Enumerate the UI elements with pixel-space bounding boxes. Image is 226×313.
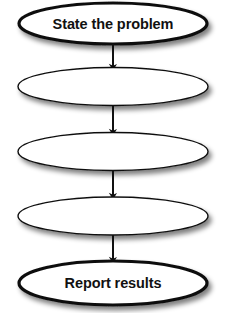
- flow-node-blank-2[interactable]: [18, 68, 208, 106]
- node-label-5: Report results: [65, 275, 162, 291]
- flowchart-diagram: State the problem Report results: [0, 0, 226, 313]
- flow-node-blank-3[interactable]: [18, 133, 208, 171]
- flow-node-blank-4[interactable]: [18, 197, 208, 235]
- node-ellipse-3: [18, 133, 208, 171]
- node-ellipse-4: [18, 197, 208, 235]
- node-ellipse-2: [18, 68, 208, 106]
- flow-node-state-the-problem[interactable]: State the problem: [19, 3, 207, 44]
- flow-node-report-results[interactable]: Report results: [19, 261, 207, 305]
- node-label-1: State the problem: [53, 16, 174, 32]
